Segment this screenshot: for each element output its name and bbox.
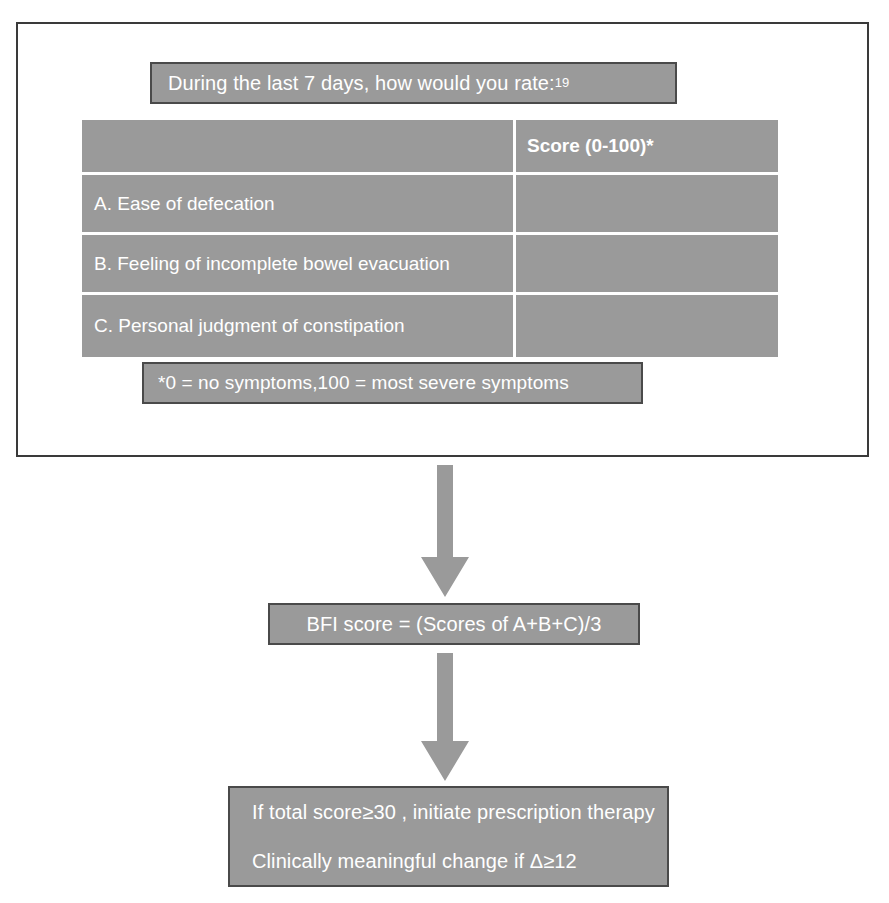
table-row: C. Personal judgment of constipation: [82, 295, 778, 357]
recommendation-line-1: If total score≥30 , initiate prescriptio…: [252, 801, 655, 824]
question-header-text: During the last 7 days, how would you ra…: [168, 72, 555, 95]
bfi-score-formula-box: BFI score = (Scores of A+B+C)/3: [268, 603, 640, 645]
table-gridline: [82, 172, 778, 175]
recommendation-box: If total score≥30 , initiate prescriptio…: [228, 786, 669, 887]
table-gridline: [82, 292, 778, 295]
header-cell-score: Score (0-100)*: [513, 120, 778, 172]
header-cell-blank: [82, 120, 513, 172]
row-label-c: C. Personal judgment of constipation: [82, 295, 513, 357]
row-label-a: A. Ease of defecation: [82, 175, 513, 232]
recommendation-line-2: Clinically meaningful change if Δ≥12: [252, 850, 577, 873]
row-score-input-a[interactable]: [513, 175, 778, 232]
down-arrow-icon: [410, 465, 480, 597]
row-label-b: B. Feeling of incomplete bowel evacuatio…: [82, 235, 513, 292]
table-row: A. Ease of defecation: [82, 175, 778, 232]
table-column-divider: [513, 120, 516, 357]
score-legend-footnote: *0 = no symptoms,100 = most severe sympt…: [142, 362, 643, 404]
down-arrow-icon: [410, 653, 480, 781]
footnote-text: *0 = no symptoms,100 = most severe sympt…: [158, 372, 569, 394]
table-row: B. Feeling of incomplete bowel evacuatio…: [82, 235, 778, 292]
bfi-score-table: Score (0-100)* A. Ease of defecation B. …: [82, 120, 778, 357]
table-gridline: [82, 232, 778, 235]
diagram-canvas: During the last 7 days, how would you ra…: [0, 0, 889, 903]
row-score-input-c[interactable]: [513, 295, 778, 357]
row-score-input-b[interactable]: [513, 235, 778, 292]
bfi-score-formula-text: BFI score = (Scores of A+B+C)/3: [307, 613, 602, 636]
table-header-row: Score (0-100)*: [82, 120, 778, 172]
question-header: During the last 7 days, how would you ra…: [150, 62, 677, 104]
